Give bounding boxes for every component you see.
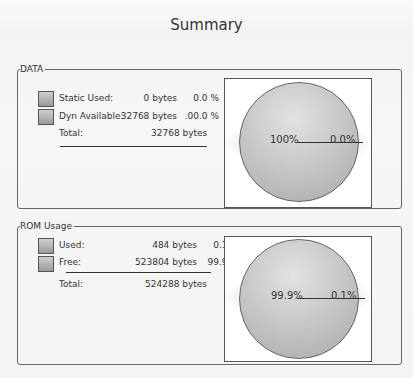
rom-pie-chart: 99.9% 0.1% (224, 236, 372, 362)
pie-label-small: 0.1% (331, 290, 356, 301)
rom-group-label: ROM Usage (20, 220, 74, 232)
rom-row-total: Total: 524288 bytes (59, 278, 239, 291)
legend-swatch-dyn-available (38, 109, 54, 125)
row-label: Free: (59, 256, 81, 269)
row-percent: 0.0 % (193, 92, 219, 105)
pie-label-large: 99.9% (271, 290, 303, 301)
pie-label-small: 0.0% (330, 134, 355, 145)
row-value: 32768 bytes (121, 110, 177, 123)
legend-swatch-free (38, 256, 54, 272)
data-row-static-used: Static Used: 0 bytes 0.0 % (59, 92, 219, 105)
row-label: Total: (59, 127, 83, 140)
rom-group: ROM Usage Used: 484 bytes 0.1 % Free: 52… (17, 226, 402, 365)
row-label: Dyn Available: (59, 110, 124, 123)
row-value: 523804 bytes (135, 256, 197, 269)
legend-swatch-used (38, 238, 54, 254)
data-row-total: Total: 32768 bytes (59, 127, 219, 140)
row-value: 524288 bytes (145, 278, 207, 291)
data-group: DATA Static Used: 0 bytes 0.0 % Dyn Avai… (17, 69, 402, 209)
page-title: Summary (0, 16, 413, 34)
total-separator (66, 272, 211, 273)
pie-label-large: 100% (270, 134, 299, 145)
row-value: 0 bytes (144, 92, 177, 105)
row-label: Used: (59, 239, 85, 252)
data-pie-chart: 100% 0.0% (224, 78, 372, 208)
row-value: 32768 bytes (151, 127, 207, 140)
rom-row-free: Free: 523804 bytes 99.9 % (59, 256, 239, 269)
row-label: Static Used: (59, 92, 113, 105)
data-group-label: DATA (20, 63, 45, 75)
rom-row-used: Used: 484 bytes 0.1 % (59, 239, 239, 252)
row-percent: .00.0 % (185, 110, 219, 123)
total-separator (60, 146, 207, 147)
data-row-dyn-available: Dyn Available: 32768 bytes .00.0 % (59, 110, 219, 123)
row-value: 484 bytes (152, 239, 197, 252)
row-label: Total: (59, 278, 83, 291)
legend-swatch-static-used (38, 91, 54, 107)
